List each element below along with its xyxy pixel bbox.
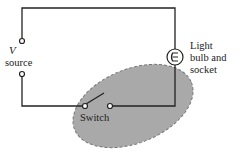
source-symbol-label: V xyxy=(9,44,17,56)
source-terminal-top-icon xyxy=(20,39,25,44)
source-terminal-bottom-icon xyxy=(20,72,25,77)
switch-terminal-right-icon xyxy=(108,104,113,109)
bulb-label-line3: socket xyxy=(190,64,217,75)
bulb-label-line1: Light xyxy=(190,40,213,51)
light-bulb-icon xyxy=(167,49,183,65)
wire-top xyxy=(22,8,175,49)
switch-terminal-left-icon xyxy=(83,104,88,109)
switch-label: Switch xyxy=(80,112,110,123)
circuit-svg: V source Light bulb and socket Switch xyxy=(0,0,245,153)
highlight-ellipse xyxy=(61,48,206,153)
wire-bottom-left xyxy=(22,76,82,106)
bulb-label-line2: bulb and xyxy=(190,52,227,63)
source-label: source xyxy=(5,57,33,68)
circuit-diagram: V source Light bulb and socket Switch xyxy=(0,0,245,153)
